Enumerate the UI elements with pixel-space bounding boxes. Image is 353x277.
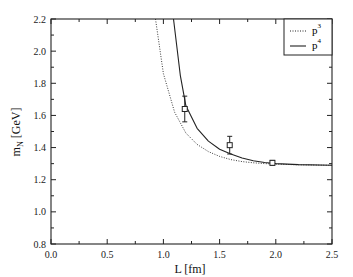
x-tick-labels: 0.00.51.01.52.02.5	[45, 249, 339, 260]
y-tick-label: 0.8	[34, 239, 47, 250]
open-square-marker-icon	[270, 160, 275, 165]
x-axis-label: L [fm]	[174, 262, 205, 276]
x-tick-label: 1.0	[157, 249, 170, 260]
y-tick-label: 1.0	[34, 206, 47, 217]
data-points	[182, 96, 275, 165]
data-point	[182, 96, 187, 122]
data-point	[227, 136, 232, 154]
open-square-marker-icon	[182, 107, 187, 112]
y-tick-labels: 0.81.01.21.41.61.82.02.2	[34, 14, 47, 250]
chart: 0.00.51.01.52.02.5 0.81.01.21.41.61.82.0…	[0, 0, 353, 277]
y-axis-label: mN [GeV]	[9, 108, 25, 157]
y-tick-label: 1.6	[34, 110, 47, 121]
y-tick-label: 1.4	[34, 142, 47, 153]
legend-box	[284, 19, 332, 55]
y-tick-label: 1.8	[34, 78, 47, 89]
legend: p3 p4	[284, 19, 332, 55]
x-tick-label: 1.5	[213, 249, 226, 260]
x-tick-label: 2.0	[270, 249, 283, 260]
y-tick-label: 2.2	[34, 14, 47, 25]
x-tick-label: 0.0	[45, 249, 58, 260]
data-point	[270, 160, 275, 165]
x-tick-label: 2.5	[326, 249, 339, 260]
y-tick-label: 1.2	[34, 174, 47, 185]
y-tick-label: 2.0	[34, 46, 47, 57]
x-tick-label: 0.5	[101, 249, 114, 260]
open-square-marker-icon	[227, 143, 232, 148]
